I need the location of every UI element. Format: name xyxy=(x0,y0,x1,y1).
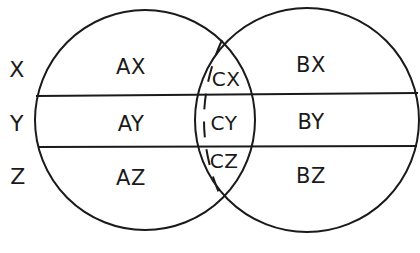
region-ay: AY xyxy=(118,114,145,135)
region-ax: AX xyxy=(116,57,146,78)
region-by: BY xyxy=(297,112,324,133)
region-cz: CZ xyxy=(210,151,239,171)
region-bz: BZ xyxy=(296,166,326,187)
region-az: AZ xyxy=(116,168,146,189)
row-label-y: Y xyxy=(10,113,24,135)
region-cx: CX xyxy=(212,69,241,89)
region-bx: BX xyxy=(296,55,326,76)
region-cy: CY xyxy=(211,113,238,133)
venn-diagram: X Y Z AX AY AZ CX CY CZ BX BY BZ xyxy=(0,0,420,253)
row-label-x: X xyxy=(9,59,25,81)
row-label-z: Z xyxy=(10,166,26,188)
